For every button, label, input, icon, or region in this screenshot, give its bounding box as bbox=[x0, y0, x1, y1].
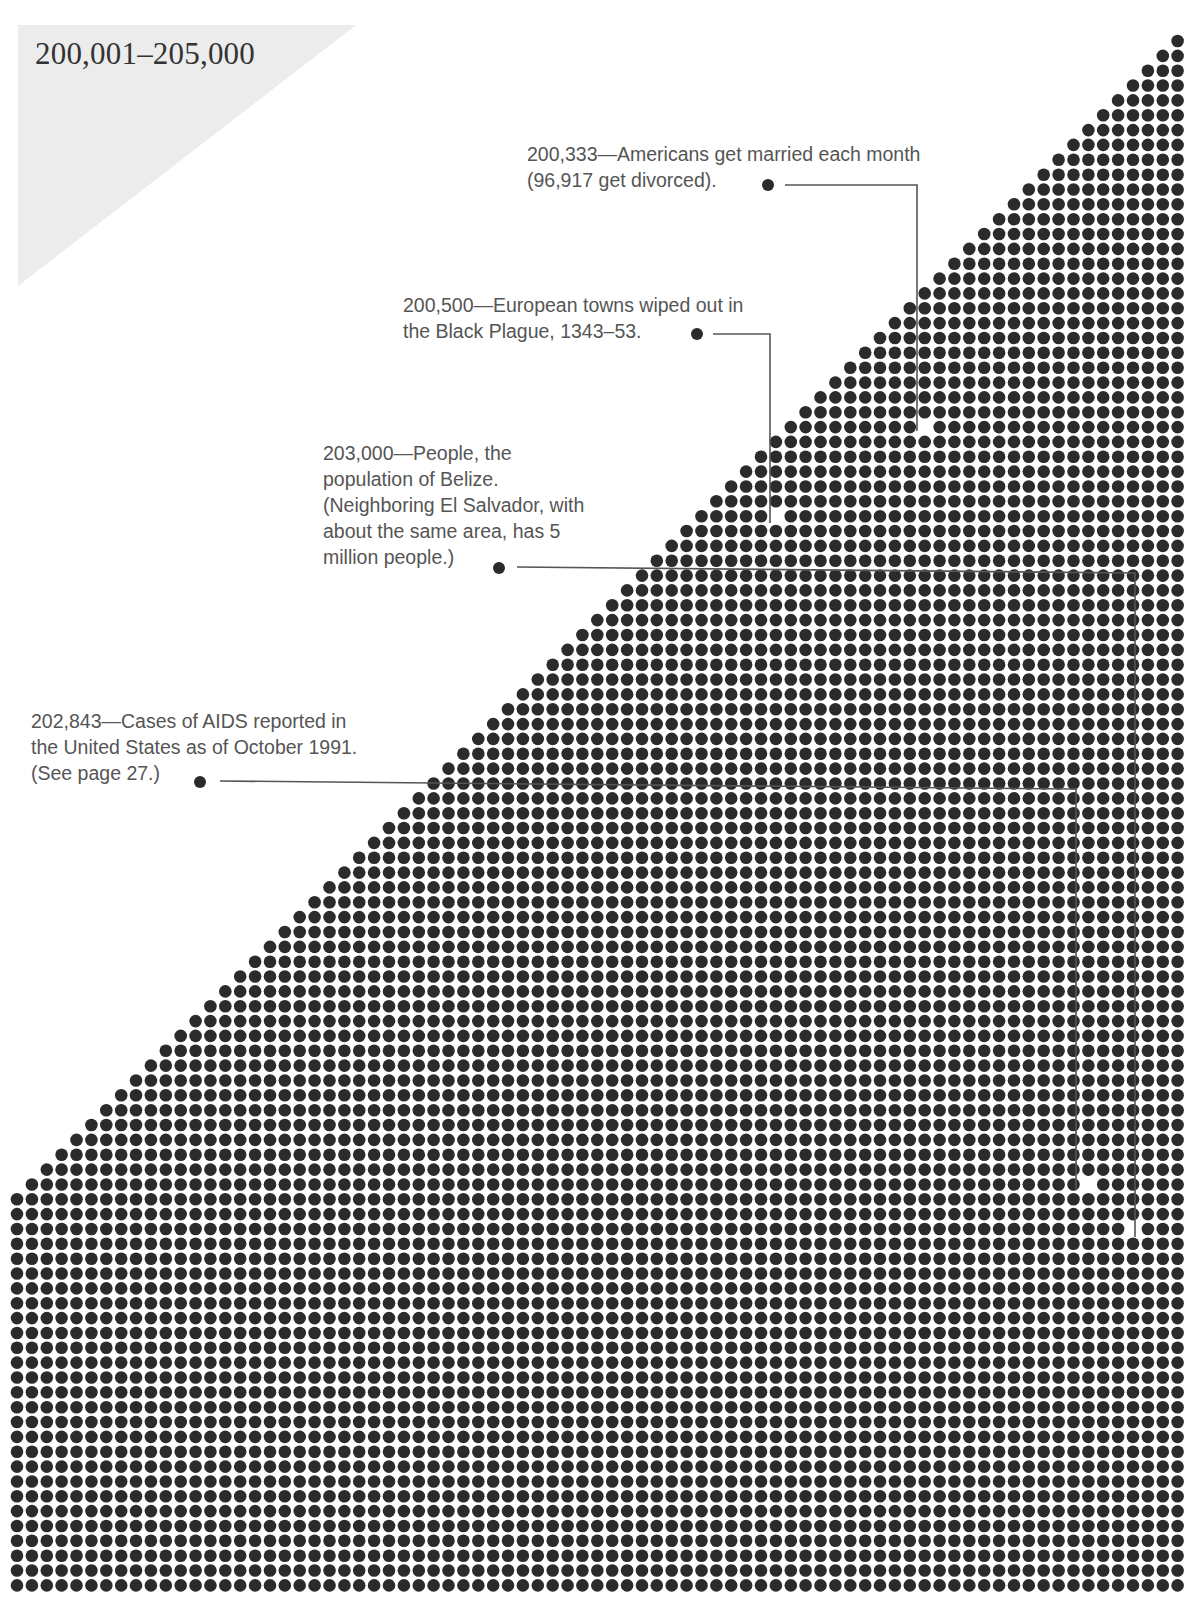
dot bbox=[502, 1252, 515, 1265]
dot bbox=[130, 1475, 143, 1488]
dot bbox=[1037, 317, 1050, 330]
dot bbox=[55, 1238, 68, 1251]
dot bbox=[814, 525, 827, 538]
dot bbox=[1097, 272, 1110, 285]
dot bbox=[710, 1252, 723, 1265]
dot bbox=[219, 1163, 232, 1176]
dot bbox=[695, 1549, 708, 1562]
dot bbox=[1037, 1416, 1050, 1429]
dot bbox=[413, 1089, 426, 1102]
dot bbox=[785, 644, 798, 657]
dot bbox=[740, 1134, 753, 1147]
dot bbox=[1023, 391, 1036, 404]
dot bbox=[130, 1564, 143, 1577]
dot bbox=[636, 866, 649, 879]
dot bbox=[338, 985, 351, 998]
dot bbox=[1067, 1297, 1080, 1310]
dot bbox=[606, 792, 619, 805]
dot bbox=[770, 1401, 783, 1414]
dot bbox=[621, 688, 634, 701]
dot bbox=[85, 1416, 98, 1429]
dot bbox=[1127, 555, 1140, 568]
dot bbox=[487, 1163, 500, 1176]
dot bbox=[665, 644, 678, 657]
dot bbox=[1023, 718, 1036, 731]
dot bbox=[1082, 688, 1095, 701]
dot bbox=[799, 1505, 812, 1518]
dot bbox=[1127, 1446, 1140, 1459]
dot bbox=[725, 510, 738, 523]
dot bbox=[874, 1089, 887, 1102]
dot bbox=[234, 1238, 247, 1251]
dot bbox=[606, 911, 619, 924]
dot bbox=[874, 1178, 887, 1191]
dot bbox=[487, 1460, 500, 1473]
dot bbox=[1127, 1208, 1140, 1221]
dot bbox=[1052, 896, 1065, 909]
dot bbox=[353, 1193, 366, 1206]
dot bbox=[978, 926, 991, 939]
dot bbox=[963, 985, 976, 998]
dot bbox=[1112, 1252, 1125, 1265]
dot bbox=[204, 1475, 217, 1488]
dot bbox=[978, 495, 991, 508]
dot bbox=[160, 1416, 173, 1429]
dot bbox=[353, 1386, 366, 1399]
dot bbox=[948, 1282, 961, 1295]
dot bbox=[1112, 1446, 1125, 1459]
dot bbox=[145, 1074, 158, 1087]
dot bbox=[814, 1520, 827, 1533]
dot bbox=[770, 822, 783, 835]
dot bbox=[680, 1535, 693, 1548]
dot bbox=[859, 1030, 872, 1043]
dot bbox=[130, 1134, 143, 1147]
dot bbox=[844, 1431, 857, 1444]
dot bbox=[234, 1431, 247, 1444]
dot bbox=[993, 1208, 1006, 1221]
dot bbox=[561, 1446, 574, 1459]
dot bbox=[844, 658, 857, 671]
dot bbox=[904, 376, 917, 389]
dot bbox=[561, 1564, 574, 1577]
dot bbox=[859, 733, 872, 746]
dot bbox=[1037, 762, 1050, 775]
dot bbox=[978, 1178, 991, 1191]
dot bbox=[799, 970, 812, 983]
dot bbox=[889, 970, 902, 983]
dot bbox=[1097, 1059, 1110, 1072]
dot bbox=[963, 1119, 976, 1132]
dot bbox=[368, 1252, 381, 1265]
dot bbox=[219, 1252, 232, 1265]
dot bbox=[100, 1401, 113, 1414]
dot bbox=[933, 287, 946, 300]
dot bbox=[1008, 421, 1021, 434]
dot bbox=[561, 748, 574, 761]
dot bbox=[1067, 1460, 1080, 1473]
dot bbox=[427, 1163, 440, 1176]
dot bbox=[799, 1535, 812, 1548]
dot bbox=[993, 1431, 1006, 1444]
dot bbox=[710, 1401, 723, 1414]
dot bbox=[413, 1015, 426, 1028]
dot bbox=[680, 1104, 693, 1117]
dot bbox=[204, 1223, 217, 1236]
dot bbox=[487, 1193, 500, 1206]
dot bbox=[487, 1520, 500, 1533]
dot bbox=[219, 1401, 232, 1414]
dot bbox=[1008, 302, 1021, 315]
dot bbox=[859, 970, 872, 983]
dot bbox=[963, 881, 976, 894]
dot bbox=[829, 1520, 842, 1533]
dot bbox=[1082, 852, 1095, 865]
dot bbox=[413, 1059, 426, 1072]
dot bbox=[1142, 926, 1155, 939]
dot bbox=[472, 837, 485, 850]
dot bbox=[680, 569, 693, 582]
dot bbox=[829, 1416, 842, 1429]
dot bbox=[1127, 361, 1140, 374]
dot bbox=[1157, 302, 1170, 315]
dot bbox=[844, 436, 857, 449]
dot bbox=[591, 1015, 604, 1028]
dot bbox=[293, 1059, 306, 1072]
dot bbox=[353, 1475, 366, 1488]
